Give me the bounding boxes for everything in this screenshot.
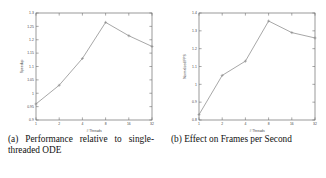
figure-row: 0.90.9511.051.11.151.21.251.312481632# T…: [0, 0, 326, 178]
fps-plot-frame: [199, 13, 315, 120]
plot-a-wrapper: 0.90.9511.051.11.151.21.251.312481632# T…: [0, 0, 163, 133]
fps-xtick-label: 1: [198, 122, 200, 126]
fps-xtick-label: 16: [290, 122, 294, 126]
speedup-ytick-label: 1.2: [29, 38, 34, 42]
fps-xtick-label: 32: [313, 122, 317, 126]
subfigure-a: 0.90.9511.051.11.151.21.251.312481632# T…: [0, 0, 163, 178]
fps-ytick-label: 1: [195, 83, 197, 87]
plot-b-wrapper: 0.80.911.11.21.31.412481632# ThreadsNorm…: [163, 0, 326, 133]
fps-ytick-label: 1.4: [192, 11, 197, 15]
fps-ytick-label: 0.9: [192, 100, 197, 104]
fps-xaxis-title: # Threads: [249, 129, 265, 133]
speedup-data-line: [36, 22, 152, 104]
speedup-ytick-label: 1.05: [27, 78, 34, 82]
speedup-xtick-label: 1: [35, 122, 37, 126]
fps-xtick-label: 8: [268, 122, 270, 126]
caption-b: (b) Effect on Frames per Second: [163, 134, 326, 145]
caption-a: (a) Performance relative to single-threa…: [0, 134, 163, 157]
normalized-fps-chart: 0.80.911.11.21.31.412481632# ThreadsNorm…: [163, 0, 326, 133]
speedup-xaxis-title: # Threads: [86, 129, 102, 133]
fps-data-line: [199, 21, 315, 115]
fps-ytick-label: 1.3: [192, 29, 197, 33]
speedup-xtick-label: 4: [81, 122, 83, 126]
caption-a-label: (a): [8, 134, 18, 144]
speedup-ytick-label: 0.95: [27, 105, 34, 109]
caption-b-text: Effect on Frames per Second: [184, 134, 292, 144]
fps-ytick-label: 1.1: [192, 65, 197, 69]
fps-xtick-label: 4: [244, 122, 246, 126]
speedup-xtick-label: 2: [58, 122, 60, 126]
speedup-ytick-label: 1.25: [27, 25, 34, 29]
speedup-ytick-label: 1.1: [29, 65, 34, 69]
speedup-xtick-label: 32: [150, 122, 154, 126]
speedup-ytick-label: 1.3: [29, 11, 34, 15]
speedup-ytick-label: 0.9: [29, 118, 34, 122]
speedup-chart: 0.90.9511.051.11.151.21.251.312481632# T…: [0, 0, 163, 133]
caption-b-label: (b): [171, 134, 182, 144]
fps-xtick-label: 2: [221, 122, 223, 126]
fps-yaxis-title: Normalized FPS: [183, 53, 187, 78]
speedup-plot-frame: [36, 13, 152, 120]
speedup-yaxis-title: Speedup: [20, 60, 24, 74]
speedup-xtick-label: 16: [127, 122, 131, 126]
fps-ytick-label: 0.8: [192, 118, 197, 122]
speedup-ytick-label: 1.15: [27, 51, 34, 55]
speedup-ytick-label: 1: [32, 92, 34, 96]
caption-a-text: Performance relative to single-threaded …: [8, 134, 154, 155]
speedup-xtick-label: 8: [105, 122, 107, 126]
subfigure-b: 0.80.911.11.21.31.412481632# ThreadsNorm…: [163, 0, 326, 178]
fps-ytick-label: 1.2: [192, 47, 197, 51]
